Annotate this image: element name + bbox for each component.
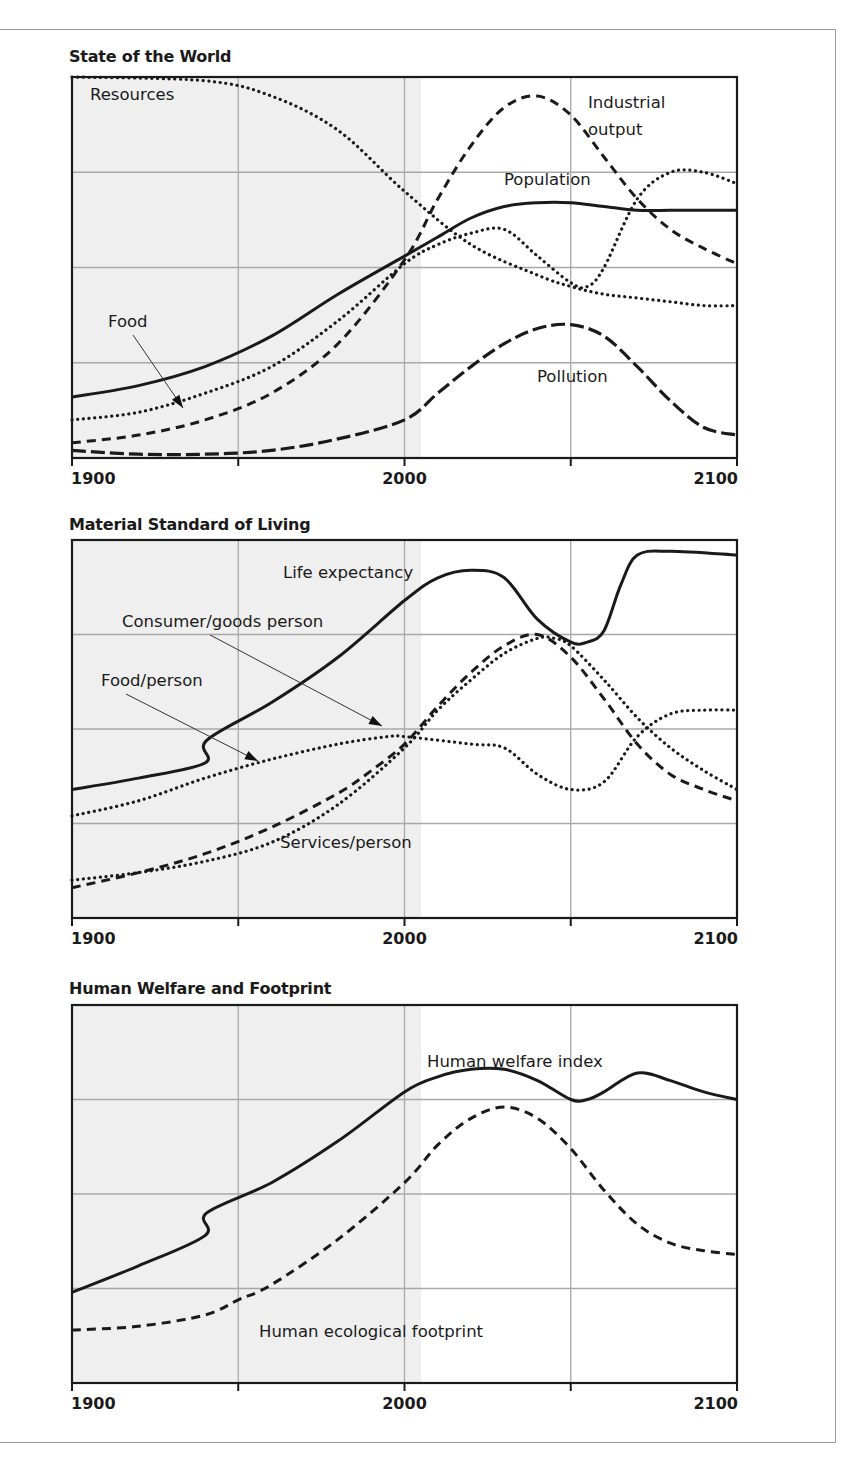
page-frame-bottom-border <box>0 1442 836 1443</box>
series-label: Human ecological footprint <box>259 1322 484 1341</box>
line-chart: 190020002100Human welfare indexHuman eco… <box>0 0 857 1440</box>
x-tick-label: 1900 <box>71 1394 116 1413</box>
x-tick-label: 2100 <box>693 1394 738 1413</box>
x-tick-label: 2000 <box>382 1394 427 1413</box>
series-label: Human welfare index <box>427 1052 603 1071</box>
